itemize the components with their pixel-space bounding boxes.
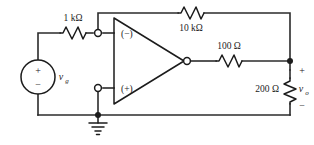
schematic-canvas: 1 kΩ 10 kΩ 100 Ω 200 Ω + − v g bbox=[0, 0, 314, 145]
input-resistor-label: 1 kΩ bbox=[64, 13, 83, 23]
load-resistor-zigzag bbox=[284, 78, 296, 104]
output-voltage-annotation: + v o − bbox=[299, 65, 309, 111]
voltage-source-plus: + bbox=[35, 65, 41, 76]
output-voltage-label: v bbox=[299, 83, 304, 94]
ground-symbol bbox=[89, 115, 107, 135]
feedback-resistor-zigzag bbox=[178, 7, 204, 19]
input-resistor: 1 kΩ bbox=[60, 13, 86, 39]
voltage-source: + − v g bbox=[21, 60, 69, 94]
series-resistor-zigzag bbox=[216, 55, 242, 67]
feedback-resistor: 10 kΩ bbox=[178, 7, 204, 33]
wire-feedback-left bbox=[98, 13, 178, 30]
noninverting-input-terminal-node bbox=[95, 85, 102, 92]
circuit-diagram: 1 kΩ 10 kΩ 100 Ω 200 Ω + − v g bbox=[0, 0, 314, 145]
operational-amplifier: (−) (+) bbox=[114, 18, 184, 104]
feedback-resistor-label: 10 kΩ bbox=[179, 23, 203, 33]
load-resistor: 200 Ω bbox=[255, 78, 296, 104]
load-resistor-label: 200 Ω bbox=[255, 84, 279, 94]
output-voltage-minus: − bbox=[299, 100, 305, 111]
voltage-source-label-subscript: g bbox=[65, 77, 69, 85]
opamp-noninverting-label: (+) bbox=[121, 84, 133, 95]
output-voltage-label-subscript: o bbox=[305, 89, 309, 97]
opamp-output-terminal-node bbox=[184, 58, 191, 65]
inverting-input-terminal-node bbox=[95, 30, 102, 37]
series-output-resistor: 100 Ω bbox=[216, 41, 242, 67]
output-voltage-plus: + bbox=[299, 65, 305, 76]
opamp-inverting-label: (−) bbox=[121, 29, 133, 40]
voltage-source-label: v bbox=[59, 71, 64, 82]
input-resistor-zigzag bbox=[60, 27, 86, 39]
series-resistor-label: 100 Ω bbox=[217, 41, 241, 51]
voltage-source-minus: − bbox=[35, 79, 41, 90]
wire-source-to-input-resistor bbox=[38, 33, 60, 60]
output-junction-dot bbox=[287, 58, 293, 64]
